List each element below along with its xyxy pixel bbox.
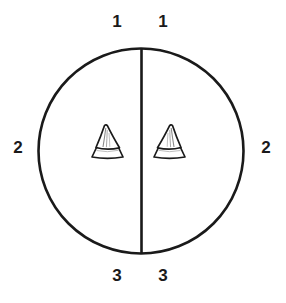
label-right: 2 bbox=[256, 139, 276, 156]
label-top-left: 1 bbox=[107, 13, 127, 30]
label-top-right: 1 bbox=[153, 13, 173, 30]
diagram-canvas bbox=[0, 0, 286, 303]
anatomical-circle-diagram: 1 1 2 2 3 3 bbox=[0, 0, 286, 303]
label-bottom-right: 3 bbox=[153, 267, 173, 284]
label-bottom-left: 3 bbox=[107, 267, 127, 284]
label-left: 2 bbox=[8, 139, 28, 156]
